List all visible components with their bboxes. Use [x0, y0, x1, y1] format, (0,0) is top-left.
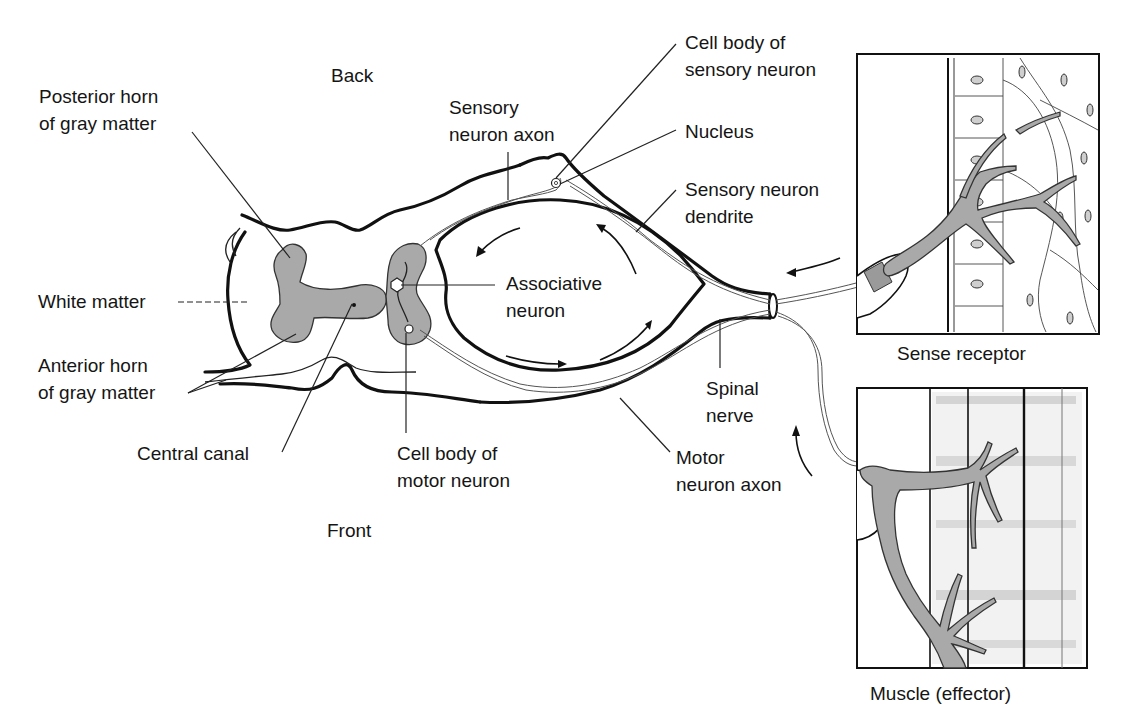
gray-matter-left	[271, 244, 386, 342]
flow-arrow	[480, 228, 520, 252]
flow-arrow	[506, 356, 560, 364]
label-back: Back	[331, 62, 373, 89]
flow-arrow	[792, 258, 840, 272]
muscle-inset	[857, 388, 1087, 668]
label-posterior-horn: Posterior horn of gray matter	[39, 83, 158, 137]
reflex-arc-diagram: Back Front Posterior horn of gray matter…	[0, 0, 1135, 722]
label-cell-body-motor: Cell body of motor neuron	[397, 440, 510, 494]
central-canal-dot	[352, 303, 356, 307]
gray-matter	[271, 244, 431, 345]
label-central-canal: Central canal	[137, 440, 249, 467]
flow-arrow	[602, 228, 636, 274]
caption-sense-receptor: Sense receptor	[897, 340, 1026, 367]
leader-nucleus	[560, 130, 676, 184]
label-sensory-axon: Sensory neuron axon	[449, 94, 555, 148]
spinal-cord-outline	[205, 165, 520, 402]
sense-receptor-inset	[857, 54, 1099, 334]
leader-motor-axon	[620, 398, 670, 452]
label-anterior-horn: Anterior horn of gray matter	[38, 352, 155, 406]
label-spinal-nerve: Spinal nerve	[706, 375, 759, 429]
leader-sensory-dendrite	[636, 190, 676, 232]
label-associative-neuron: Associative neuron	[506, 270, 602, 324]
label-motor-axon: Motor neuron axon	[676, 444, 782, 498]
sensory-nucleus	[554, 181, 557, 184]
motor-neuron-cell-body	[405, 325, 413, 333]
label-front: Front	[327, 517, 371, 544]
label-nucleus: Nucleus	[685, 118, 754, 145]
caption-muscle: Muscle (effector)	[870, 680, 1011, 707]
label-cell-body-sensory: Cell body of sensory neuron	[685, 29, 816, 83]
flow-arrow	[796, 432, 812, 476]
label-white-matter: White matter	[38, 288, 146, 315]
label-sensory-dendrite: Sensory neuron dendrite	[685, 176, 819, 230]
